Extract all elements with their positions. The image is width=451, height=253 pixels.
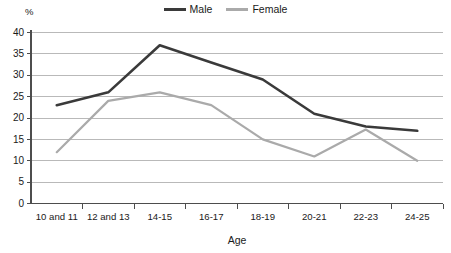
gridlines-group (27, 33, 443, 204)
x-axis-title: Age (228, 234, 247, 246)
y-tick-label: 20 (13, 112, 25, 123)
y-tick-label: 5 (18, 176, 24, 187)
series-group (57, 45, 418, 160)
x-tick-labels-group: 10 and 1112 and 1314-1516-1718-1920-2122… (36, 211, 430, 222)
y-tick-label: 40 (13, 27, 25, 38)
x-tick-label: 10 and 11 (36, 211, 78, 222)
x-tick-label: 18-19 (250, 211, 275, 222)
y-tick-label: 25 (13, 91, 25, 102)
y-tick-label: 15 (13, 134, 25, 145)
y-tick-label: 30 (13, 69, 25, 80)
x-tick-label: 22-23 (353, 211, 378, 222)
y-tick-labels-group: 0510152025303540 (13, 27, 25, 209)
x-tick-label: 24-25 (405, 211, 430, 222)
chart-plot-area: 0510152025303540 10 and 1112 and 1314-15… (0, 0, 451, 253)
y-tick-label: 35 (13, 48, 25, 59)
y-tick-label: 10 (13, 155, 25, 166)
x-tick-label: 14-15 (147, 211, 172, 222)
x-tick-label: 12 and 13 (87, 211, 130, 222)
line-chart: Male Female % 0510152025303540 10 and 11… (0, 0, 451, 253)
y-tick-label: 0 (18, 198, 24, 209)
x-tick-label: 16-17 (199, 211, 224, 222)
x-tick-marks-group (83, 204, 444, 209)
x-tick-label: 20-21 (302, 211, 327, 222)
